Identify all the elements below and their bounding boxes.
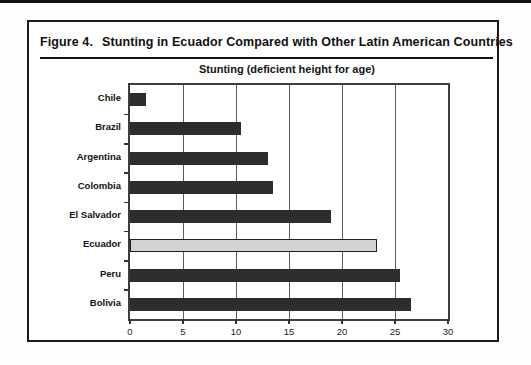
figure-frame: Figure 4.Stunting in Ecuador Compared wi… [27, 20, 499, 342]
category-boundary-tick [124, 202, 130, 204]
figure-title-text: Stunting in Ecuador Compared with Other … [102, 35, 513, 49]
plot-area: 051015202530 [128, 83, 450, 321]
category-boundary-tick [124, 260, 130, 262]
gridline-10 [236, 85, 237, 319]
bar-peru [130, 269, 400, 282]
scan-edge-artifact [0, 0, 531, 3]
x-axis-tick-10 [235, 319, 237, 324]
bar-colombia [130, 181, 273, 194]
category-label-colombia: Colombia [29, 180, 121, 191]
x-axis-label-0: 0 [118, 326, 142, 337]
x-axis-label-25: 25 [383, 326, 407, 337]
x-axis-label-5: 5 [171, 326, 195, 337]
x-axis-label-10: 10 [224, 326, 248, 337]
x-axis-label-20: 20 [330, 326, 354, 337]
chart-title: Stunting (deficient height for age) [128, 63, 446, 75]
category-label-bolivia: Bolivia [29, 297, 121, 308]
gridline-15 [289, 85, 290, 319]
category-boundary-tick [124, 289, 130, 291]
bar-brazil [130, 122, 241, 135]
bar-ecuador [130, 239, 377, 252]
x-axis-tick-5 [182, 319, 184, 324]
bar-el-salvador [130, 210, 331, 223]
category-label-chile: Chile [29, 92, 121, 103]
x-axis-label-30: 30 [436, 326, 460, 337]
category-boundary-tick [124, 231, 130, 233]
x-axis-tick-30 [447, 319, 449, 324]
x-axis-tick-0 [129, 319, 131, 324]
x-axis-tick-15 [288, 319, 290, 324]
document-page: Figure 4.Stunting in Ecuador Compared wi… [0, 0, 531, 365]
bar-chile [130, 93, 146, 106]
category-label-argentina: Argentina [29, 151, 121, 162]
category-boundary-tick [124, 114, 130, 116]
category-label-peru: Peru [29, 268, 121, 279]
category-axis-labels: ChileBrazilArgentinaColombiaEl SalvadorE… [29, 83, 121, 317]
category-boundary-tick [124, 172, 130, 174]
category-label-brazil: Brazil [29, 121, 121, 132]
figure-title: Figure 4.Stunting in Ecuador Compared wi… [40, 35, 490, 49]
figure-number: Figure 4. [40, 35, 93, 49]
category-label-el-salvador: El Salvador [29, 209, 121, 220]
x-axis-tick-25 [394, 319, 396, 324]
x-axis-tick-20 [341, 319, 343, 324]
bar-argentina [130, 152, 268, 165]
x-axis-label-15: 15 [277, 326, 301, 337]
gridline-5 [183, 85, 184, 319]
bar-bolivia [130, 298, 411, 311]
category-boundary-tick [124, 143, 130, 145]
gridline-20 [342, 85, 343, 319]
gridline-25 [395, 85, 396, 319]
title-underline [40, 57, 493, 59]
category-label-ecuador: Ecuador [29, 238, 121, 249]
